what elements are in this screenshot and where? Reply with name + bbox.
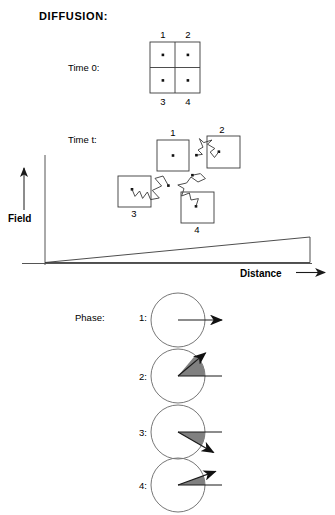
timet-box-label-1: 1	[170, 127, 175, 138]
timet-box-3: 3	[118, 176, 170, 219]
diffusion-diagram: DIFFUSION: Time 0: 1 2 3 4 Time t: 1 2 3	[0, 0, 335, 515]
phase-row-2: 2:	[139, 349, 222, 403]
timet-box-label-2: 2	[219, 124, 224, 135]
timet-box-4: 4	[178, 174, 214, 235]
phase-index-4: 4:	[139, 480, 147, 491]
timet-box-label-3: 3	[131, 208, 136, 219]
time0-cell-label-3: 3	[160, 96, 165, 107]
phase-label: Phase:	[75, 312, 105, 323]
field-axis-label: Field	[8, 213, 31, 224]
timet-box-label-4: 4	[194, 224, 199, 235]
time0-cell-label-4: 4	[185, 96, 190, 107]
field-axis: Field	[8, 155, 45, 265]
timet-label: Time t:	[68, 134, 97, 145]
field-gradient-wedge	[45, 237, 310, 263]
time0-grid: 1 2 3 4	[150, 29, 200, 107]
timet-box-1: 1	[157, 127, 189, 171]
timet-box-2: 2	[195, 124, 240, 168]
page-title: DIFFUSION:	[39, 10, 108, 22]
phase-row-1: 1:	[139, 293, 222, 347]
phase-row-3: 3:	[139, 405, 222, 459]
phase-index-1: 1:	[139, 312, 147, 323]
distance-axis-label: Distance	[240, 268, 282, 279]
time0-cell-label-2: 2	[185, 29, 190, 40]
distance-axis: Distance	[22, 264, 325, 280]
phase-index-3: 3:	[139, 427, 147, 438]
time0-cell-label-1: 1	[160, 29, 165, 40]
phase-row-4: 4:	[139, 458, 222, 512]
phase-index-2: 2:	[139, 371, 147, 382]
time0-label: Time 0:	[68, 62, 99, 73]
